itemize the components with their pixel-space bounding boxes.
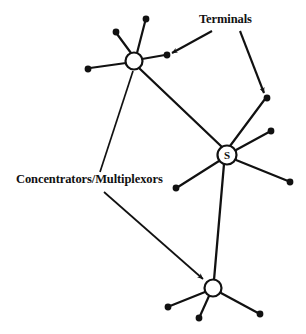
- label-concentrators: Concentrators/Multiplexors: [16, 173, 163, 186]
- terminal-dot: [196, 315, 203, 322]
- spoke-s-t6: [236, 132, 269, 150]
- trunk-link-s-c2: [214, 164, 224, 280]
- network-diagram: S Terminals Concentrators/Multiplexors: [0, 0, 306, 334]
- terminal-dot: [85, 66, 92, 73]
- terminal-dot: [143, 16, 150, 23]
- terminal-dot: [257, 311, 264, 318]
- spoke-s-t5: [230, 99, 265, 146]
- spoke-c1-t1: [117, 34, 131, 53]
- terminal-dot: [173, 185, 180, 192]
- terminal-dot: [165, 304, 172, 311]
- spoke-c2-t11: [221, 293, 258, 313]
- spoke-s-t7: [236, 160, 288, 181]
- spoke-s-t8: [178, 161, 219, 187]
- terminal-dot-group: [85, 16, 294, 322]
- node-switch-letter: S: [224, 149, 230, 161]
- spoke-group-switch: [178, 99, 288, 187]
- terminal-dot: [164, 52, 171, 59]
- spoke-c1-t3: [90, 63, 126, 68]
- terminal-dot: [264, 95, 271, 102]
- terminal-dot: [287, 179, 294, 186]
- node-concentrator-bottom[interactable]: [205, 280, 222, 297]
- network-topology-svg: S: [0, 0, 306, 334]
- leader-terminals-right: [240, 31, 264, 93]
- terminal-dot: [113, 29, 120, 36]
- leader-line-group: [100, 31, 264, 279]
- spoke-c2-t9: [170, 292, 205, 306]
- label-terminals: Terminals: [199, 13, 252, 26]
- leader-concentrators-up: [100, 71, 133, 172]
- spoke-c1-t4: [142, 55, 165, 59]
- leader-concentrators-down: [104, 192, 203, 279]
- trunk-link-c1-s: [139, 68, 222, 147]
- spoke-c1-t2: [137, 22, 145, 53]
- terminal-dot: [268, 128, 275, 135]
- leader-terminals-left: [172, 31, 212, 53]
- spoke-c2-t10: [200, 296, 209, 316]
- node-concentrator-top[interactable]: [126, 53, 143, 70]
